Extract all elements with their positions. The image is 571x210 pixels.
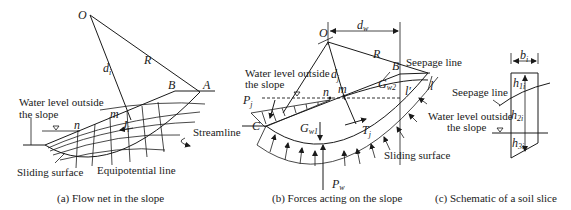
label-h3i: h3i <box>512 136 524 151</box>
caption-c: (c) Schematic of a soil slice <box>435 192 557 205</box>
label-equipotential: Equipotential line <box>97 164 176 176</box>
label-d: di <box>103 61 111 77</box>
panel-a-flow-net: O R di B A m n Ji Water level outside th… <box>17 8 241 205</box>
equipotential-line <box>142 106 147 157</box>
crest-line <box>400 73 430 74</box>
sliding-surface <box>266 73 428 144</box>
label-Tj: Tj <box>362 123 372 139</box>
label-B: B <box>392 59 400 73</box>
label-h1i: h1i <box>513 76 525 91</box>
label-water-level-2: the slope <box>447 121 487 133</box>
label-seepage-line: Seepage line <box>452 86 508 98</box>
streamline-arrow-icon <box>181 138 190 146</box>
water-level-symbol-icon <box>497 128 503 132</box>
equipotential-line <box>76 130 78 168</box>
label-A: A <box>202 78 211 92</box>
label-O: O <box>78 8 87 22</box>
label-Pw: Pw <box>331 177 345 192</box>
label-water-level-2: the slope <box>19 108 59 120</box>
equipotential-line <box>92 124 95 166</box>
label-sliding-surface: Sliding surface <box>17 166 83 178</box>
label-J: Ji <box>122 118 130 134</box>
label-streamline: Streamline <box>193 126 241 138</box>
label-R: R <box>372 47 381 61</box>
label-n: n <box>323 85 329 99</box>
label-m: m <box>110 107 119 121</box>
figure: O R di B A m n Ji Water level outside th… <box>0 0 571 210</box>
label-sliding-surface: Sliding surface <box>384 149 450 161</box>
label-C: C <box>252 119 261 133</box>
caption-a: (a) Flow net in the slope <box>57 192 164 205</box>
label-m: m <box>338 82 347 96</box>
label-R: R <box>143 53 152 67</box>
label-bi: bi <box>520 48 528 64</box>
label-B: B <box>168 78 176 92</box>
label-Pj: Pj <box>242 93 253 109</box>
label-seepage-line: Seepage line <box>406 56 462 68</box>
pressure-hatch <box>262 102 318 124</box>
panel-c-soil-slice: bi h1i h2i h3i Seepage line Water level … <box>428 48 557 205</box>
leader-line <box>55 153 65 163</box>
streamline <box>60 149 165 160</box>
label-O: O <box>319 26 328 40</box>
equipotential-line <box>110 117 112 165</box>
water-level-symbol-icon <box>53 126 59 130</box>
tj-line <box>344 96 356 124</box>
caption-b: (b) Forces acting on the slope <box>272 192 403 205</box>
label-l-prime: l′ <box>405 84 411 98</box>
label-n: n <box>74 118 80 132</box>
label-water-level: Water level outside <box>19 96 104 108</box>
label-dw: dw <box>357 18 369 33</box>
label-l: l <box>430 79 434 93</box>
equipotential-line <box>127 111 130 162</box>
label-dj: dj <box>331 67 340 83</box>
label-water-level-2: the slope <box>245 78 285 90</box>
seepage-leader <box>493 100 500 105</box>
label-Gw1: Gw1 <box>300 121 318 136</box>
equipotential-line <box>158 102 164 152</box>
label-h2i: h2i <box>511 108 523 123</box>
